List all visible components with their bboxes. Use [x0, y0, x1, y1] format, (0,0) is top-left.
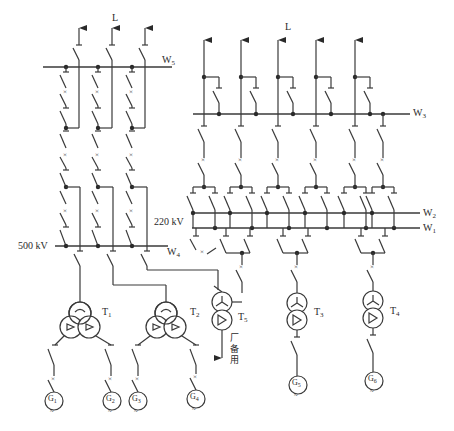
- line-label-right: L: [285, 21, 291, 32]
- svg-text:×: ×: [294, 263, 298, 271]
- svg-text:×: ×: [352, 156, 356, 164]
- svg-text:×: ×: [51, 375, 55, 383]
- bus-label-w4: W4: [167, 246, 180, 259]
- svg-text:×: ×: [95, 151, 99, 159]
- generator-label-g2: G2: [106, 394, 115, 404]
- transformer-label-t4: T4: [390, 305, 400, 318]
- svg-text:~: ~: [50, 407, 54, 415]
- svg-text:×: ×: [275, 156, 279, 164]
- section-500kv: × × ×: [43, 28, 222, 303]
- svg-text:×: ×: [135, 375, 139, 383]
- bus-label-w1: W1: [423, 222, 436, 235]
- aux-supply-label: 厂 备 用: [230, 333, 239, 366]
- svg-text:×: ×: [129, 88, 133, 96]
- transformer-label-t3: T3: [314, 306, 324, 319]
- generator-label-g4: G4: [190, 392, 199, 402]
- transformer-t4: [363, 291, 383, 372]
- bus-label-w3: W3: [413, 107, 426, 120]
- gen-branch-g4: ×: [182, 336, 199, 390]
- svg-text:×: ×: [238, 156, 242, 164]
- generator-label-g5: G5: [292, 378, 301, 388]
- transformer-label-t5: T5: [238, 311, 248, 324]
- svg-text:~: ~: [134, 407, 138, 415]
- bus-label-w2: W2: [423, 207, 436, 220]
- svg-text:×: ×: [370, 263, 374, 271]
- voltage-label-500kv: 500 kV: [18, 240, 48, 251]
- svg-text:×: ×: [239, 263, 243, 271]
- generator-label-g1: G1: [48, 394, 57, 404]
- line-label-left: L: [112, 12, 118, 23]
- transformer-t1: [60, 302, 100, 338]
- transformer-t3: [287, 293, 307, 378]
- bay-column-2: × × ×: [92, 28, 166, 303]
- svg-text:×: ×: [313, 156, 317, 164]
- svg-text:×: ×: [129, 151, 133, 159]
- svg-text:×: ×: [63, 207, 67, 215]
- generator-label-g3: G3: [132, 394, 141, 404]
- svg-text:×: ×: [129, 207, 133, 215]
- svg-text:~: ~: [108, 407, 112, 415]
- gen-branch-g3: ×: [132, 336, 150, 392]
- svg-text:×: ×: [63, 88, 67, 96]
- svg-text:~: ~: [370, 387, 374, 395]
- svg-text:×: ×: [200, 248, 204, 256]
- svg-text:×: ×: [380, 156, 384, 164]
- svg-text:×: ×: [95, 88, 99, 96]
- voltage-label-220kv: 220 kV: [154, 216, 184, 227]
- section-220kv: ××××××××××: [187, 40, 420, 293]
- transformer-label-t1: T1: [102, 306, 112, 319]
- transformer-label-t2: T2: [190, 306, 200, 319]
- svg-text:×: ×: [108, 375, 112, 383]
- svg-text:×: ×: [63, 151, 67, 159]
- svg-text:×: ×: [95, 207, 99, 215]
- gen-branch-g2: ×: [96, 336, 114, 392]
- svg-text:~: ~: [192, 405, 196, 413]
- svg-text:×: ×: [201, 156, 205, 164]
- single-line-diagram: × × ×: [0, 0, 454, 431]
- gen-branch-g1: ×: [48, 336, 64, 393]
- svg-text:×: ×: [193, 373, 197, 381]
- transformer-t2: [146, 302, 186, 338]
- bus-label-w5: W5: [162, 54, 175, 67]
- generator-label-g6: G6: [368, 374, 377, 384]
- svg-text:~: ~: [294, 391, 298, 399]
- bay-column-1: × × ×: [60, 28, 83, 303]
